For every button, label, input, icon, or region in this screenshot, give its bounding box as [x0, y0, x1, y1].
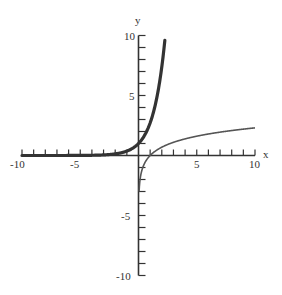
y-tick-label-neg5: -5 — [121, 210, 131, 222]
x-axis-label: x — [263, 148, 269, 160]
exp-curve — [22, 40, 165, 155]
x-tick-label-10: 10 — [249, 158, 261, 170]
y-axis-label: y — [135, 14, 141, 26]
x-tick-label-5: 5 — [194, 158, 200, 170]
x-tick-label-neg10: -10 — [10, 158, 25, 170]
y-tick-label-neg10: -10 — [116, 270, 131, 282]
x-tick-label-neg5: -5 — [70, 158, 80, 170]
y-tick-label-5: 5 — [129, 90, 135, 102]
function-plot: x y -10 -5 5 10 10 5 -5 -10 — [0, 0, 282, 295]
y-tick-label-10: 10 — [124, 30, 136, 42]
